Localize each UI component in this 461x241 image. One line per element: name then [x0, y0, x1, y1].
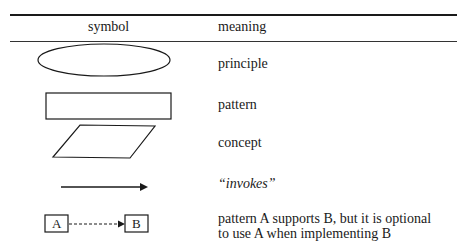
rectangle-symbol: [46, 93, 171, 119]
meaning-concept: concept: [218, 135, 262, 150]
box-b-label: B: [132, 217, 141, 231]
meaning-optional-support-line2: to use A when implementing B: [218, 226, 391, 241]
box-a-label: A: [52, 217, 61, 231]
parallelogram-symbol: [53, 125, 155, 158]
ellipse-symbol: [38, 44, 170, 76]
meaning-pattern: pattern: [218, 97, 257, 112]
meaning-principle: principle: [218, 56, 268, 71]
symbol-shapes: [0, 0, 461, 241]
solid-arrowhead-icon: [140, 183, 148, 191]
meaning-invokes: “invokes”: [218, 176, 276, 191]
meaning-optional-support-line1: pattern A supports B, but it is optional: [218, 211, 431, 226]
dashed-arrowhead-icon: [118, 221, 125, 228]
